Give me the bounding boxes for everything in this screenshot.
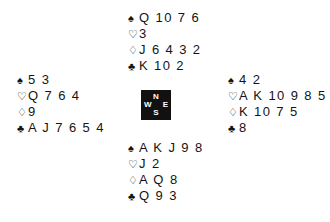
hand-west-spades-cards: 5 3	[28, 72, 50, 88]
hand-south: ♠ A K J 9 8 ♡ J 2 ♢ A Q 8 ♣ Q 9 3	[128, 140, 204, 204]
hand-south-diamonds-cards: A Q 8	[139, 172, 179, 188]
heart-icon: ♡	[128, 156, 139, 172]
heart-icon: ♡	[128, 26, 139, 42]
hand-south-spades-cards: A K J 9 8	[139, 140, 204, 156]
hand-south-clubs-line: ♣ Q 9 3	[128, 188, 204, 204]
hand-west-hearts-line: ♡ Q 7 6 4	[17, 88, 105, 104]
hand-east-clubs-cards: 8	[239, 120, 248, 136]
hand-north-hearts-line: ♡ 3	[128, 26, 201, 42]
hand-west-diamonds-cards: 9	[28, 104, 37, 120]
hand-west-diamonds-line: ♢ 9	[17, 104, 105, 120]
hand-west-clubs-cards: A J 7 6 5 4	[28, 120, 105, 136]
hand-west: ♠ 5 3 ♡ Q 7 6 4 ♢ 9 ♣ A J 7 6 5 4	[17, 72, 105, 136]
hand-north-clubs-line: ♣ K 10 2	[128, 58, 201, 74]
bridge-hand-diagram: ♠ Q 10 7 6 ♡ 3 ♢ J 6 4 3 2 ♣ K 10 2 ♠ 5 …	[0, 0, 330, 222]
hand-north-spades-cards: Q 10 7 6	[139, 10, 200, 26]
diamond-icon: ♢	[128, 42, 139, 58]
hand-north-diamonds-cards: J 6 4 3 2	[139, 42, 201, 58]
spade-icon: ♠	[128, 140, 139, 156]
club-icon: ♣	[128, 58, 139, 74]
hand-north-diamonds-line: ♢ J 6 4 3 2	[128, 42, 201, 58]
diamond-icon: ♢	[17, 104, 28, 120]
club-icon: ♣	[128, 188, 139, 204]
hand-south-hearts-line: ♡ J 2	[128, 156, 204, 172]
diamond-icon: ♢	[128, 172, 139, 188]
hand-east-clubs-line: ♣ 8	[228, 120, 327, 136]
club-icon: ♣	[17, 120, 28, 136]
heart-icon: ♡	[228, 88, 239, 104]
hand-east-diamonds-cards: K 10 7 5	[239, 104, 299, 120]
hand-north-clubs-cards: K 10 2	[139, 58, 185, 74]
hand-north-spades-line: ♠ Q 10 7 6	[128, 10, 201, 26]
spade-icon: ♠	[228, 72, 239, 88]
hand-east-diamonds-line: ♢ K 10 7 5	[228, 104, 327, 120]
hand-east-hearts-line: ♡ A K 10 9 8 5	[228, 88, 327, 104]
club-icon: ♣	[228, 120, 239, 136]
hand-east-spades-line: ♠ 4 2	[228, 72, 327, 88]
hand-east: ♠ 4 2 ♡ A K 10 9 8 5 ♢ K 10 7 5 ♣ 8	[228, 72, 327, 136]
compass-label-west: W	[144, 101, 152, 109]
hand-south-hearts-cards: J 2	[139, 156, 161, 172]
hand-west-hearts-cards: Q 7 6 4	[28, 88, 80, 104]
hand-east-hearts-cards: A K 10 9 8 5	[239, 88, 327, 104]
spade-icon: ♠	[128, 10, 139, 26]
hand-north: ♠ Q 10 7 6 ♡ 3 ♢ J 6 4 3 2 ♣ K 10 2	[128, 10, 201, 74]
compass-label-east: E	[163, 101, 168, 109]
spade-icon: ♠	[17, 72, 28, 88]
hand-south-clubs-cards: Q 9 3	[139, 188, 178, 204]
hand-west-clubs-line: ♣ A J 7 6 5 4	[17, 120, 105, 136]
hand-west-spades-line: ♠ 5 3	[17, 72, 105, 88]
heart-icon: ♡	[17, 88, 28, 104]
hand-north-hearts-cards: 3	[139, 26, 148, 42]
compass-box: N W E S	[141, 90, 171, 120]
diamond-icon: ♢	[228, 104, 239, 120]
compass-label-south: S	[141, 109, 171, 117]
hand-south-spades-line: ♠ A K J 9 8	[128, 140, 204, 156]
hand-east-spades-cards: 4 2	[239, 72, 261, 88]
hand-south-diamonds-line: ♢ A Q 8	[128, 172, 204, 188]
